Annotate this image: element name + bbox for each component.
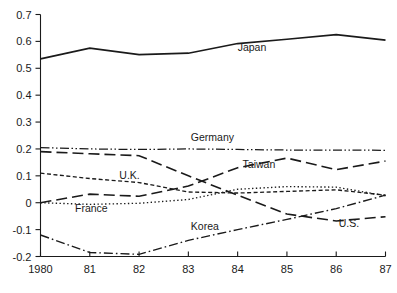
y-axis-tick-label: -0.1 [13,224,32,236]
series-label-korea: Korea [191,220,219,232]
x-axis: 198081828384858687 [28,252,391,275]
y-axis-tick-label: 0.1 [16,170,31,182]
y-axis: -0.2-0.100.10.20.30.40.50.60.7 [13,9,41,263]
series-line-germany [41,148,386,151]
y-axis-tick-label: 0 [25,197,31,209]
y-axis-tick-label: -0.2 [13,251,32,263]
series-labels: JapanGermanyTaiwanU.S.U.K.FranceKorea [75,41,359,232]
series-label-u-s: U.S. [339,217,359,229]
y-axis-tick-label: 0.5 [16,62,31,74]
series-label-taiwan: Taiwan [243,158,276,170]
x-axis-tick-label: 82 [133,263,145,275]
x-axis-tick-label: 84 [232,263,244,275]
series-label-germany: Germany [191,131,235,143]
y-axis-tick-label: 0.7 [16,9,31,21]
y-axis-tick-label: 0.6 [16,35,31,47]
series-label-japan: Japan [238,41,267,53]
x-axis-tick-label: 85 [281,263,293,275]
x-axis-tick-label: 87 [379,263,391,275]
y-axis-tick-label: 0.4 [16,89,31,101]
chart-canvas: -0.2-0.100.10.20.30.40.50.60.7 198081828… [0,0,397,293]
x-axis-tick-label: 1980 [28,263,52,275]
line-chart-figure: -0.2-0.100.10.20.30.40.50.60.7 198081828… [0,0,397,293]
series-label-france: France [75,202,108,214]
x-axis-tick-label: 83 [182,263,194,275]
y-axis-tick-label: 0.2 [16,143,31,155]
series-line-taiwan [41,158,386,203]
x-axis-tick-label: 86 [330,263,342,275]
series-label-u-k: U.K. [119,169,139,181]
series-line-japan [41,35,386,59]
x-axis-tick-label: 81 [84,263,96,275]
y-axis-tick-label: 0.3 [16,116,31,128]
